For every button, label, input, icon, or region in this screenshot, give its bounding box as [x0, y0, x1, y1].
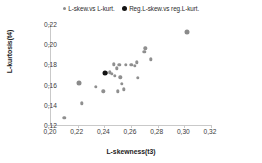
legend-marker-icon-series-1 [122, 6, 127, 11]
data-point [112, 63, 115, 66]
scatter-chart: L-skew.vs L-kurt. Reg.L-skew.vs reg.L-ku… [0, 0, 262, 163]
data-point [76, 81, 81, 86]
legend-label-series-1: Reg.L-skew.vs reg.L-kurt. [129, 5, 199, 12]
legend-label-series-0: L-skew.vs L-kurt. [68, 5, 114, 12]
data-point [115, 67, 118, 70]
x-axis-tick-label: 0,20 [44, 128, 57, 135]
data-point [135, 60, 138, 63]
data-point [80, 102, 83, 105]
data-point [119, 76, 122, 79]
legend-entry-reg-l-skew-vs-reg-l-kurt[interactable]: Reg.L-skew.vs reg.L-kurt. [122, 5, 200, 12]
data-point [143, 50, 146, 53]
legend-entry-l-skew-vs-l-kurt[interactable]: L-skew.vs L-kurt. [63, 5, 115, 12]
data-point [144, 47, 147, 50]
x-axis-title: L-skewness(t3) [0, 148, 262, 155]
data-point [118, 63, 121, 66]
data-point [102, 90, 105, 93]
data-point [149, 57, 152, 60]
y-axis-tick-label: 0,14 [44, 101, 57, 108]
y-axis-tick-label: 0,20 [44, 41, 57, 48]
data-point [113, 74, 116, 77]
y-axis-tick-label: 0,22 [44, 21, 57, 28]
data-point [63, 116, 66, 119]
plot-area [50, 24, 211, 126]
data-point [103, 71, 108, 76]
x-axis-tick-label: 0,26 [124, 128, 137, 135]
y-axis-tick-label: 0,12 [44, 122, 57, 129]
x-axis-tick-label: 0,32 [204, 128, 217, 135]
data-point [133, 64, 136, 67]
x-axis-tick-label: 0,30 [177, 128, 190, 135]
data-point [120, 82, 123, 85]
y-axis-tick-label: 0,18 [44, 61, 57, 68]
x-axis-tick-label: 0,22 [70, 128, 83, 135]
data-point [94, 85, 97, 88]
data-point [124, 63, 127, 66]
data-point [185, 29, 190, 34]
data-point [116, 90, 119, 93]
y-axis-tick-label: 0,16 [44, 81, 57, 88]
legend-marker-icon-series-0 [63, 7, 66, 10]
data-point [136, 76, 139, 79]
chart-legend: L-skew.vs L-kurt. Reg.L-skew.vs reg.L-ku… [0, 2, 262, 15]
y-axis-title: L-kurtosis(t4) [6, 2, 13, 102]
x-axis-tick-label: 0,24 [97, 128, 110, 135]
data-point [122, 88, 125, 91]
x-axis-tick-label: 0,28 [150, 128, 163, 135]
